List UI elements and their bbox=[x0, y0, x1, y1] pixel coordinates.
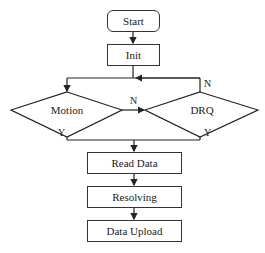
drq-decision: DRQ bbox=[165, 102, 239, 118]
resolving-node: Resolving bbox=[87, 186, 182, 208]
data-upload-node: Data Upload bbox=[87, 220, 182, 242]
motion-no-label: N bbox=[130, 95, 137, 106]
flowchart-connectors bbox=[0, 0, 265, 253]
init-node: Init bbox=[107, 44, 160, 66]
motion-yes-label: Y bbox=[58, 127, 65, 138]
motion-decision: Motion bbox=[30, 102, 104, 118]
drq-yes-label: Y bbox=[204, 127, 211, 138]
drq-no-label: N bbox=[204, 78, 211, 89]
read-data-node: Read Data bbox=[87, 152, 182, 174]
start-node: Start bbox=[107, 10, 160, 32]
